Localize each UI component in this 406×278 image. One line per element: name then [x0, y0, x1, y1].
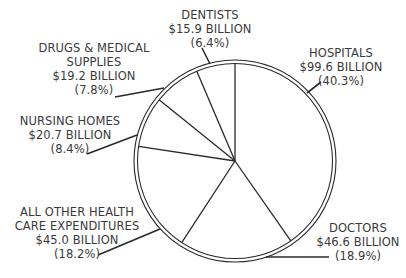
label-doctors-name: DOCTORS: [298, 221, 406, 235]
label-hospitals-value: $99.6 BILLION: [281, 60, 401, 74]
label-hospitals: HOSPITALS $99.6 BILLION (40.3%): [281, 46, 401, 88]
label-all-other-percent: (18.2%): [2, 247, 152, 261]
label-dentists: DENTISTS $15.9 BILLION (6.4%): [160, 8, 260, 50]
label-all-other: ALL OTHER HEALTH CARE EXPENDITURES $45.0…: [2, 205, 152, 261]
label-doctors: DOCTORS $46.6 BILLION (18.9%): [298, 221, 406, 263]
label-drugs-name-1: DRUGS & MEDICAL: [24, 41, 164, 55]
label-hospitals-name: HOSPITALS: [281, 46, 401, 60]
label-drugs-percent: (7.8%): [24, 83, 164, 97]
label-nursing: NURSING HOMES $20.7 BILLION (8.4%): [5, 114, 135, 156]
label-doctors-value: $46.6 BILLION: [298, 235, 406, 249]
leader-dentists: [202, 48, 210, 64]
label-all-other-name-1: ALL OTHER HEALTH: [2, 205, 152, 219]
label-dentists-value: $15.9 BILLION: [160, 22, 260, 36]
label-dentists-name: DENTISTS: [160, 8, 260, 22]
label-hospitals-percent: (40.3%): [281, 74, 401, 88]
label-drugs-value: $19.2 BILLION: [24, 69, 164, 83]
label-drugs: DRUGS & MEDICAL SUPPLIES $19.2 BILLION (…: [24, 41, 164, 97]
label-drugs-name-2: SUPPLIES: [24, 55, 164, 69]
label-doctors-percent: (18.9%): [298, 249, 406, 263]
label-all-other-name-2: CARE EXPENDITURES: [2, 219, 152, 233]
label-dentists-percent: (6.4%): [160, 36, 260, 50]
label-all-other-value: $45.0 BILLION: [2, 233, 152, 247]
label-nursing-name: NURSING HOMES: [5, 114, 135, 128]
label-nursing-value: $20.7 BILLION: [5, 128, 135, 142]
label-nursing-percent: (8.4%): [5, 142, 135, 156]
